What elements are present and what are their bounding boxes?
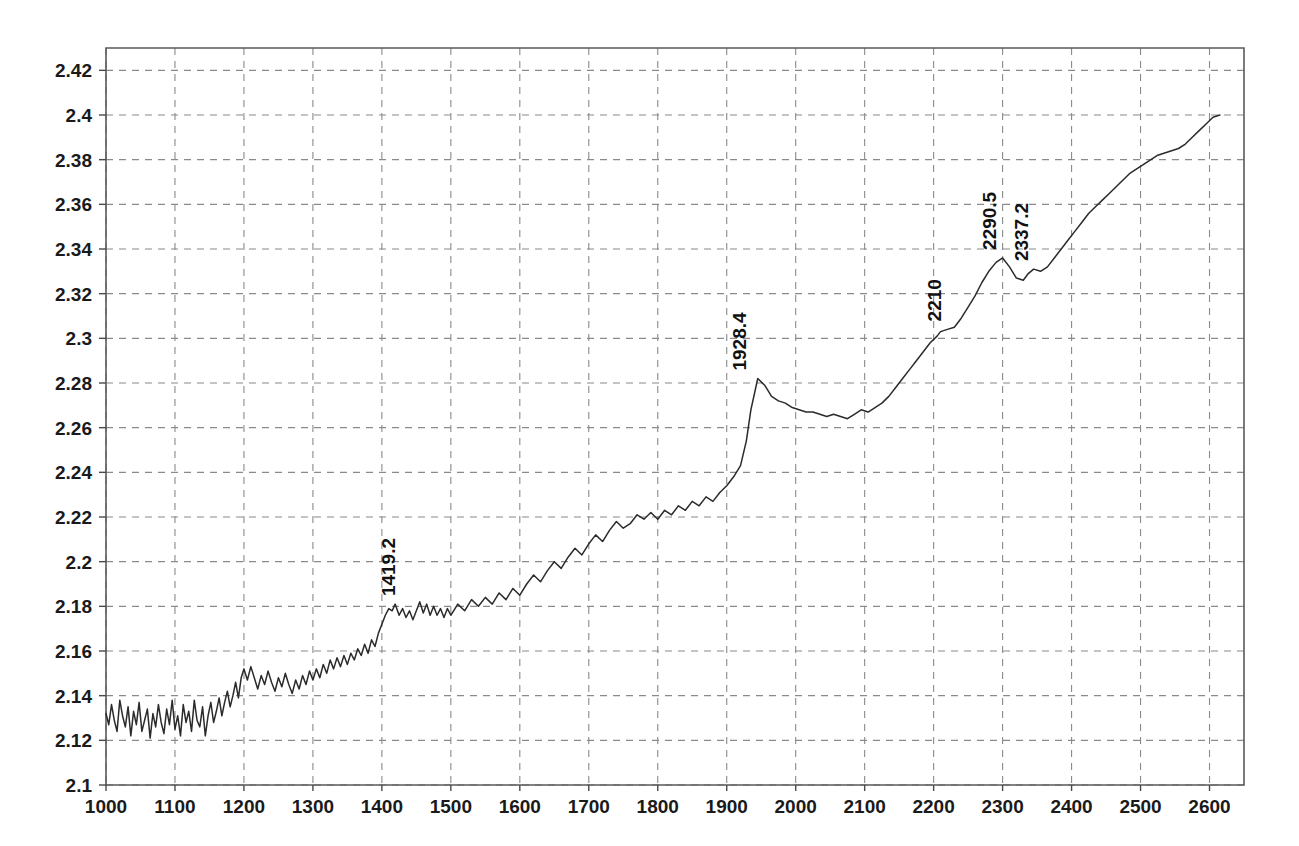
x-tick-label: 1000 [85,796,127,817]
y-tick-label: 2.42 [55,60,92,81]
peak-annotation-label: 2290.5 [979,191,1000,250]
y-tick-label: 2.16 [55,641,92,662]
x-tick-label: 1600 [499,796,541,817]
peak-annotation-label: 2210 [924,279,945,321]
x-tick-label: 1700 [568,796,610,817]
y-tick-label: 2.36 [55,194,92,215]
x-tick-label: 2600 [1188,796,1230,817]
x-tick-label: 1500 [430,796,472,817]
y-tick-label: 2.34 [55,239,92,260]
x-tick-label: 1800 [637,796,679,817]
x-tick-label: 1400 [361,796,403,817]
y-tick-label: 2.28 [55,373,92,394]
x-tick-label: 2100 [844,796,886,817]
y-tick-label: 2.24 [55,462,92,483]
y-tick-label: 2.18 [55,596,92,617]
y-tick-label: 2.14 [55,686,92,707]
x-tick-label: 1100 [154,796,195,817]
peak-annotation-label: 1928.4 [729,312,750,371]
x-tick-label: 2500 [1119,796,1161,817]
y-tick-label: 2.12 [55,730,92,751]
y-tick-label: 2.1 [66,775,93,796]
y-tick-label: 2.4 [66,105,93,126]
x-tick-label: 2400 [1050,796,1092,817]
spectrum-chart: 1000110012001300140015001600170018001900… [0,0,1299,846]
x-tick-label: 1200 [223,796,265,817]
peak-annotation-label: 1419.2 [378,538,399,596]
y-tick-label: 2.3 [66,328,92,349]
y-tick-label: 2.32 [55,284,92,305]
x-tick-label: 2200 [912,796,954,817]
chart-page: 1000110012001300140015001600170018001900… [0,0,1299,846]
x-tick-label: 2300 [981,796,1023,817]
chart-background [0,0,1299,846]
y-tick-label: 2.38 [55,150,92,171]
x-tick-label: 2000 [775,796,817,817]
y-tick-label: 2.26 [55,418,92,439]
x-tick-label: 1300 [292,796,334,817]
x-axis-tick-labels: 1000110012001300140015001600170018001900… [85,796,1231,817]
y-tick-label: 2.2 [66,552,92,573]
x-tick-label: 1900 [706,796,748,817]
y-tick-label: 2.22 [55,507,92,528]
peak-annotation-label: 2337.2 [1011,203,1032,261]
